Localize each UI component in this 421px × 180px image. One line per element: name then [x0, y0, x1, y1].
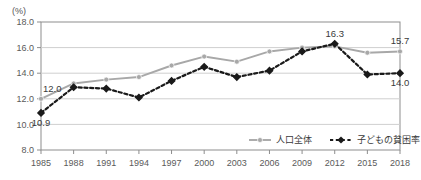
- data-point-marker: [267, 49, 272, 54]
- x-axis-tick-label: 2018: [390, 158, 410, 168]
- data-point-marker: [201, 64, 207, 70]
- x-axis-tick-label: 2006: [259, 158, 279, 168]
- y-axis-tick-label: 12.0: [16, 94, 34, 104]
- data-value-label: 10.9: [32, 117, 51, 128]
- data-point-marker: [39, 96, 44, 101]
- poverty-rate-line-chart: (%) 8.010.012.014.016.018.01985198819911…: [0, 0, 421, 180]
- data-point-marker: [202, 54, 207, 59]
- data-point-marker: [397, 70, 403, 76]
- x-axis-tick-label: 1997: [162, 158, 182, 168]
- x-axis-tick-label: 2000: [194, 158, 214, 168]
- legend-label-child-poverty: 子どもの貧困率: [357, 134, 420, 145]
- x-axis-tick-label: 1991: [96, 158, 116, 168]
- data-value-label: 15.7: [391, 35, 410, 46]
- series-line: [41, 44, 400, 113]
- data-point-marker: [365, 50, 370, 55]
- data-point-marker: [169, 63, 174, 68]
- data-value-label: 16.3: [325, 28, 344, 39]
- x-axis-tick-label: 1994: [129, 158, 149, 168]
- legend-marker-population: [258, 138, 263, 143]
- y-axis-tick-label: 16.0: [16, 43, 34, 53]
- y-axis-tick-label: 14.0: [16, 68, 34, 78]
- y-axis-tick-label: 8.0: [21, 145, 34, 155]
- data-point-marker: [234, 74, 240, 80]
- x-axis-tick-label: 2012: [325, 158, 345, 168]
- x-axis-tick-label: 2015: [357, 158, 377, 168]
- y-axis-tick-label: 18.0: [16, 17, 34, 27]
- data-point-marker: [136, 75, 141, 80]
- data-point-marker: [398, 49, 403, 54]
- legend-label-population: 人口全体: [276, 134, 312, 145]
- chart-canvas: 8.010.012.014.016.018.019851988199119941…: [0, 0, 421, 180]
- x-axis-tick-label: 2003: [227, 158, 247, 168]
- data-point-marker: [234, 59, 239, 64]
- plot-area-border: [41, 22, 400, 150]
- x-axis-tick-label: 1985: [31, 158, 51, 168]
- x-axis-tick-label: 2009: [292, 158, 312, 168]
- legend-marker-child-poverty: [337, 136, 344, 143]
- x-axis-tick-label: 1988: [64, 158, 84, 168]
- data-point-marker: [103, 85, 109, 91]
- data-point-marker: [104, 77, 109, 82]
- data-value-label: 12.0: [43, 83, 62, 94]
- data-value-label: 14.0: [391, 77, 410, 88]
